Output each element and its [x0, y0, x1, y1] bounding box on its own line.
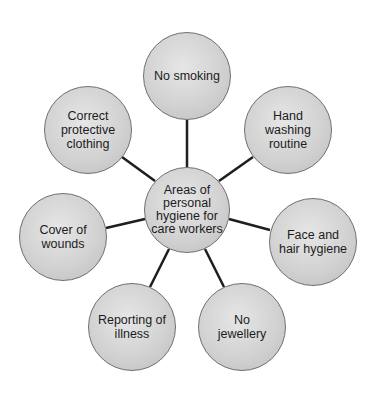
- link-face-hair: [229, 219, 270, 230]
- node-label: Face and hair hygiene: [279, 228, 347, 256]
- center-node: Areas of personal hygiene for care worke…: [144, 167, 230, 253]
- node-label: Hand washing routine: [265, 109, 311, 151]
- link-reporting-illness: [150, 249, 169, 287]
- link-protective-clothing: [122, 157, 155, 181]
- node-label: No smoking: [154, 69, 220, 83]
- node-label: Cover of wounds: [39, 223, 86, 251]
- node-label: Reporting of illness: [98, 313, 166, 341]
- node-reporting-illness: Reporting of illness: [88, 283, 176, 371]
- node-cover-wounds: Cover of wounds: [19, 193, 107, 281]
- link-no-jewellery: [205, 249, 224, 287]
- link-cover-wounds: [106, 219, 145, 228]
- node-label: No jewellery: [218, 313, 267, 341]
- link-hand-washing: [219, 157, 253, 181]
- node-protective-clothing: Correct protective clothing: [44, 86, 132, 174]
- center-label: Areas of personal hygiene for care worke…: [151, 184, 223, 236]
- node-label: Correct protective clothing: [61, 109, 115, 151]
- node-no-jewellery: No jewellery: [198, 283, 286, 371]
- node-face-hair: Face and hair hygiene: [269, 198, 357, 286]
- node-hand-washing: Hand washing routine: [244, 86, 332, 174]
- node-no-smoking: No smoking: [143, 32, 231, 120]
